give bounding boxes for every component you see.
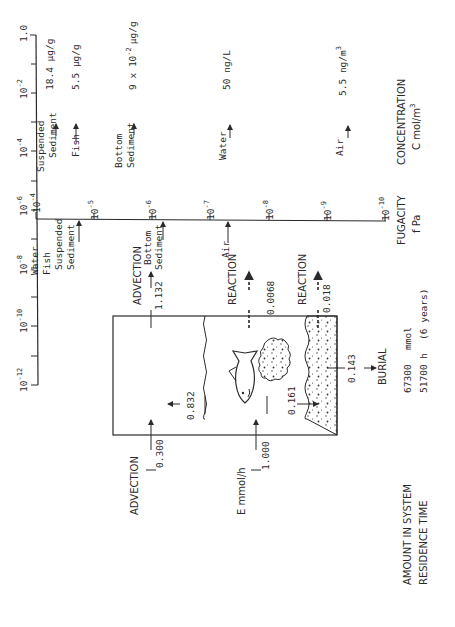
- fug-marker-suspended: Suspended: [53, 219, 64, 270]
- conc-marker-fish: Fish: [70, 134, 81, 157]
- conc-tick-2: 10: [18, 146, 29, 158]
- conc-value-air: 5.5 ng/m3: [335, 46, 348, 96]
- residence-label: RESIDENCE TIME: [418, 500, 429, 585]
- fug-tick-4: 10: [264, 208, 275, 220]
- conc-tick-0: 1.0: [18, 25, 29, 42]
- svg-text:10-5: 10-5: [87, 200, 100, 220]
- svg-text:10-9: 10-9: [320, 201, 333, 221]
- svg-text:10-8: 10-8: [16, 255, 29, 275]
- concentration-axis-title: CONCENTRATION: [396, 79, 407, 165]
- compartment-box: ADVECTION 0.300 E mmol/h 1.000 ADVECTION…: [113, 246, 388, 515]
- advection-in-label: ADVECTION: [129, 456, 140, 515]
- conc-tick-1: 10: [18, 87, 29, 99]
- fug-marker-bottom-sediment: Sediment: [153, 224, 164, 270]
- svg-text:10-10: 10-10: [16, 309, 29, 333]
- conc-marker-suspended-sediment-2: Sediment: [47, 112, 58, 158]
- fug-marker-sediment: Sediment: [65, 224, 76, 270]
- fugacity-model-figure: 1.0 10-2 10-4 10-6 10-8 10-10 10-12 18.4…: [0, 0, 455, 627]
- svg-text:10-10: 10-10: [378, 197, 391, 221]
- svg-text:10-4: 10-4: [16, 138, 29, 158]
- fugacity-axis-title: FUGACITY: [396, 194, 407, 245]
- amount-value: 67300: [402, 364, 413, 393]
- fug-tick-6: 10: [380, 209, 391, 221]
- fug-tick-3: 10: [205, 208, 216, 220]
- water-reaction-label: REACTION: [227, 254, 238, 305]
- fug-tick-5: 10: [322, 209, 333, 221]
- fug-tick-0: 10: [31, 201, 42, 213]
- system-box: [113, 316, 337, 435]
- conc-marker-air: Air: [334, 139, 345, 156]
- advection-in-value: 0.300: [154, 439, 165, 468]
- suspended-sediment-icon: [259, 338, 291, 381]
- svg-text:10-6: 10-6: [16, 196, 29, 216]
- svg-text:10-2: 10-2: [16, 79, 29, 99]
- amount-unit: mmol: [402, 327, 413, 350]
- fish-icon: [229, 351, 257, 403]
- svg-text:10-6: 10-6: [145, 200, 158, 220]
- fug-marker-water: Water: [29, 246, 40, 275]
- conc-value-water: 50 ng/L: [221, 50, 232, 90]
- advection-out-label: ADVECTION: [132, 246, 143, 305]
- emission-value: 1.000: [260, 441, 271, 470]
- residence-note: (6 years): [418, 289, 429, 340]
- conc-marker-bottom-sediment-1: Bottom: [113, 133, 124, 168]
- residence-value: 51700 h: [418, 353, 429, 393]
- volatilization-value: 0.832: [185, 391, 196, 420]
- sediment-reaction-value: 0.018: [321, 284, 332, 313]
- conc-marker-bottom-sediment-2: Sediment: [125, 122, 136, 168]
- emission-label: E mmol/h: [236, 467, 247, 515]
- svg-text:10-4: 10-4: [29, 193, 42, 213]
- conc-value-fish: 5.5 µg/g: [70, 44, 81, 90]
- conc-marker-suspended-sediment-1: Suspended: [35, 121, 46, 172]
- fugacity-axis-unit: f Pa: [411, 215, 422, 233]
- concentration-axis-unit: C mol/m3: [409, 104, 422, 150]
- burial-label: BURIAL: [377, 348, 388, 385]
- fugacity-axis: 10-4 10-5 10-6 10-7 10-8 10-9 10-10 Wate…: [29, 193, 422, 275]
- sediment-reaction-label: REACTION: [297, 254, 308, 305]
- svg-text:10-8: 10-8: [262, 200, 275, 220]
- svg-text:10-7: 10-7: [203, 200, 216, 220]
- conc-tick-4: 10: [18, 263, 29, 275]
- amount-label: AMOUNT IN SYSTEM: [402, 484, 413, 585]
- bottom-sediment-region: [305, 316, 337, 435]
- burial-value: 0.143: [346, 354, 357, 383]
- conc-value-suspended-sediment: 18.4 µg/g: [44, 39, 55, 90]
- fug-marker-fish: Fish: [41, 252, 52, 275]
- conc-tick-6: 10: [18, 380, 29, 392]
- fug-marker-bottom: Bottom: [142, 230, 153, 265]
- advection-out-value: 1.132: [153, 281, 164, 310]
- conc-tick-5: 10: [18, 321, 29, 333]
- fug-tick-1: 10: [89, 208, 100, 220]
- summary: AMOUNT IN SYSTEM 67300 mmol RESIDENCE TI…: [402, 289, 429, 585]
- deposition-value: 0.161: [286, 386, 297, 415]
- fug-tick-2: 10: [147, 208, 158, 220]
- svg-text:10-12: 10-12: [16, 368, 29, 392]
- concentration-axis: 1.0 10-2 10-4 10-6 10-8 10-10 10-12 18.4…: [16, 21, 422, 392]
- conc-value-bottom-sediment: 9 x 10-2µg/g: [125, 21, 138, 90]
- water-reaction-value: 0.0068: [265, 280, 276, 315]
- conc-tick-3: 10: [18, 204, 29, 216]
- conc-marker-water: Water: [217, 131, 228, 160]
